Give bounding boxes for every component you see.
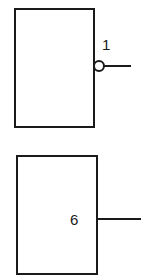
block-1: 1 — [15, 9, 131, 127]
block-2-label: 6 — [70, 211, 78, 228]
block-2: 6 — [17, 156, 141, 274]
block-2-box — [17, 156, 97, 274]
inversion-bubble-icon — [94, 61, 104, 71]
logic-diagram: 1 6 — [0, 0, 152, 279]
block-1-box — [15, 9, 94, 127]
block-1-label: 1 — [102, 36, 110, 53]
